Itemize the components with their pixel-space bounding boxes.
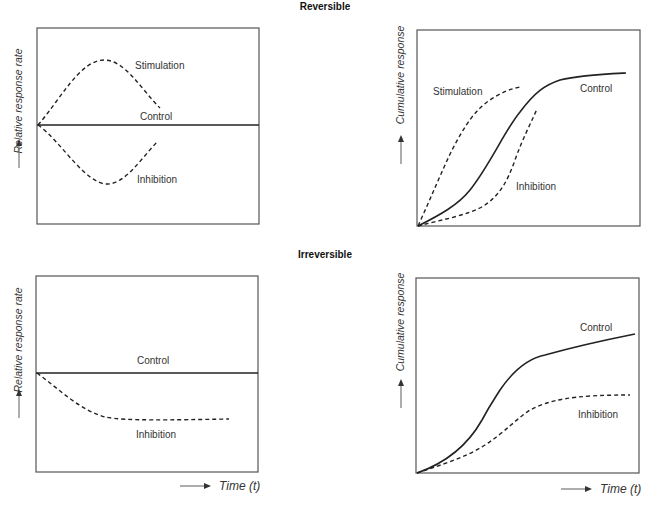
- y-arrow-icon: [398, 135, 404, 164]
- control-label: Control: [137, 355, 169, 366]
- y-axis-label: Relative response rate: [12, 287, 24, 392]
- stimulation-label: Stimulation: [433, 86, 482, 97]
- y-axis-label: Cumulative response: [394, 273, 406, 372]
- y-axis-label: Cumulative response: [394, 26, 406, 125]
- control-label: Control: [580, 83, 612, 94]
- inhibition-label: Inhibition: [137, 174, 177, 185]
- panel-reversible-rate: Relative response rate Stimulation Contr…: [12, 28, 259, 224]
- panel-reversible-cumulative: Cumulative response Stimulation Control …: [394, 26, 640, 226]
- section-title-reversible: Reversible: [300, 1, 351, 12]
- plot-frame: [416, 278, 639, 473]
- stimulation-label: Stimulation: [135, 60, 184, 71]
- x-arrow-icon: [180, 483, 211, 489]
- figure: Reversible Irreversible Relative respons…: [0, 0, 650, 507]
- panel-irreversible-rate: Relative response rate Control Inhibitio…: [12, 276, 260, 493]
- inhibition-curve: [418, 109, 537, 226]
- x-axis-label: Time (t): [219, 479, 260, 493]
- inhibition-label: Inhibition: [136, 429, 176, 440]
- stimulation-curve: [418, 87, 520, 226]
- inhibition-label: Inhibition: [516, 181, 556, 192]
- inhibition-curve: [37, 373, 229, 420]
- inhibition-curve: [417, 395, 630, 473]
- plot-frame: [36, 276, 258, 472]
- y-arrow-icon: [398, 379, 404, 408]
- control-label: Control: [140, 111, 172, 122]
- control-curve: [417, 334, 635, 473]
- x-axis-label: Time (t): [600, 482, 641, 496]
- x-arrow-icon: [561, 486, 592, 492]
- y-axis-label: Relative response rate: [12, 48, 24, 153]
- plot-frame: [37, 28, 259, 224]
- control-label: Control: [580, 322, 612, 333]
- section-title-irreversible: Irreversible: [298, 249, 352, 260]
- plot-frame: [417, 30, 640, 226]
- panel-irreversible-cumulative: Cumulative response Control Inhibition T…: [394, 273, 641, 496]
- inhibition-label: Inhibition: [578, 409, 618, 420]
